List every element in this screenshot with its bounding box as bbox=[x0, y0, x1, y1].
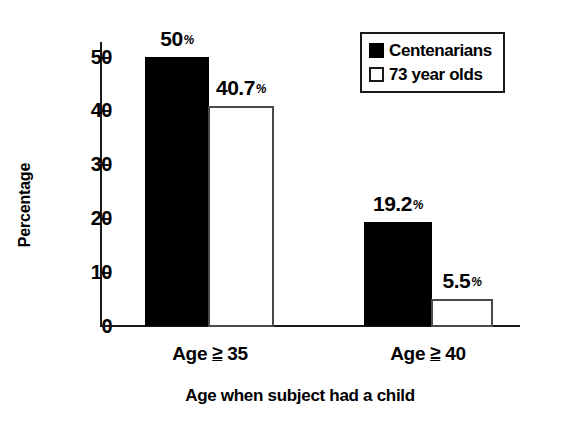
bar-chart: 50 40 30 20 10 0 Percentage 50% 40.7% 19… bbox=[0, 0, 568, 426]
percent-symbol: % bbox=[471, 275, 481, 289]
bar-value: 40.7 bbox=[216, 76, 255, 99]
bar-centenarians-age40 bbox=[364, 222, 432, 326]
y-axis-title: Percentage bbox=[16, 130, 34, 280]
bar-value: 5.5 bbox=[443, 269, 471, 292]
y-tick-label: 20 bbox=[66, 208, 112, 228]
y-axis-line bbox=[100, 42, 102, 327]
category-value: 35 bbox=[227, 343, 248, 364]
legend-label: 73 year olds bbox=[389, 66, 482, 83]
legend: Centenarians 73 year olds bbox=[360, 32, 505, 93]
bar-value-label-centenarians-age40: 19.2% bbox=[358, 193, 438, 214]
bar-value-label-73yearolds-age35: 40.7% bbox=[200, 77, 282, 98]
bar-value: 19.2 bbox=[373, 192, 412, 215]
legend-label: Centenarians bbox=[389, 42, 492, 59]
bar-73yearolds-age35 bbox=[208, 106, 274, 327]
bar-value-label-73yearolds-age40: 5.5% bbox=[424, 270, 500, 291]
category-value: 40 bbox=[445, 343, 466, 364]
category-prefix: Age bbox=[390, 343, 425, 364]
legend-item-73-year-olds: 73 year olds bbox=[369, 62, 497, 86]
category-label-age35: Age ≥ 35 bbox=[140, 344, 280, 363]
x-axis-title: Age when subject had a child bbox=[0, 386, 568, 406]
greater-equal-icon: ≥ bbox=[430, 343, 440, 362]
bar-73yearolds-age40 bbox=[431, 299, 493, 327]
percent-symbol: % bbox=[256, 82, 266, 96]
category-prefix: Age bbox=[172, 343, 207, 364]
legend-item-centenarians: Centenarians bbox=[369, 38, 497, 62]
bar-value-label-centenarians-age35: 50% bbox=[145, 28, 209, 49]
bar-value: 50 bbox=[160, 27, 182, 50]
greater-equal-icon: ≥ bbox=[212, 343, 222, 362]
legend-swatch-filled-icon bbox=[369, 43, 384, 58]
y-tick-label: 30 bbox=[66, 154, 112, 174]
percent-symbol: % bbox=[413, 198, 423, 212]
y-tick-label: 50 bbox=[66, 47, 112, 67]
percent-symbol: % bbox=[184, 33, 194, 47]
y-tick-label: 10 bbox=[66, 262, 112, 282]
y-tick-label: 40 bbox=[66, 100, 112, 120]
category-label-age40: Age ≥ 40 bbox=[358, 344, 498, 363]
legend-swatch-hollow-icon bbox=[369, 67, 384, 82]
